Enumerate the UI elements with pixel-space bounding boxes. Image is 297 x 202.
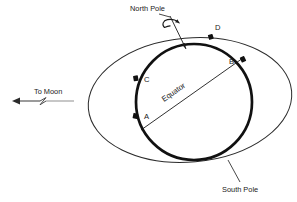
north-pole-label: North Pole	[130, 4, 165, 13]
left-arrow-icon	[12, 98, 20, 105]
tidal-bulge-outline	[83, 29, 297, 170]
point-marker-D	[208, 34, 214, 40]
tidal-bulge-diagram: North Pole South Pole To Moon Equator A …	[0, 0, 297, 202]
earth-outline	[136, 44, 252, 160]
diagram-canvas: North Pole South Pole To Moon Equator A …	[0, 0, 297, 202]
point-label-A: A	[144, 112, 150, 121]
point-label-C: C	[144, 75, 150, 84]
zigzag-break-icon	[40, 98, 46, 105]
polar-axis-group	[163, 16, 186, 49]
rotation-arrow-icon	[163, 19, 179, 27]
south-pole-leader-line	[228, 160, 240, 182]
earth-circle	[136, 44, 252, 160]
tidal-bulge-ellipse	[83, 29, 297, 170]
to-moon-arrow	[12, 98, 74, 105]
point-marker-B	[240, 56, 247, 63]
equator-line	[141, 58, 243, 130]
to-moon-label: To Moon	[34, 87, 62, 96]
south-pole-label: South Pole	[222, 185, 258, 194]
north-pole-leader-line	[159, 14, 170, 17]
point-label-B: B	[229, 57, 234, 66]
point-marker-C	[133, 75, 139, 81]
point-label-D: D	[215, 23, 221, 32]
